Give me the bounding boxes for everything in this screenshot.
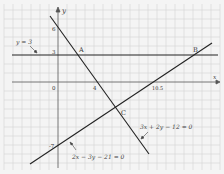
- arrow-icon: [141, 132, 148, 139]
- point-c-label: C: [121, 109, 126, 117]
- origin-label: 0: [52, 85, 56, 91]
- label-line-2: 2x − 3y − 21 = 0: [71, 153, 125, 161]
- axes: [12, 7, 220, 168]
- y-tick-6: 6: [52, 26, 56, 32]
- grid: [4, 4, 220, 170]
- point-a-label: A: [78, 46, 84, 54]
- label-y-equals-3: y = 3: [15, 38, 32, 46]
- y-tick-3: 3: [52, 49, 56, 55]
- coordinate-graph: x y 0 4 10.5 6 3 -7 A B C y = 3 3x + 2y …: [0, 0, 224, 174]
- graph-lines: [12, 16, 218, 164]
- x-axis-arrow-icon: [216, 80, 220, 84]
- label-line-1: 3x + 2y − 12 = 0: [140, 123, 193, 131]
- point-b-label: B: [193, 46, 198, 54]
- arrow-icon: [70, 142, 76, 150]
- y-axis-arrow-icon: [56, 7, 60, 12]
- y-axis-label: y: [61, 7, 67, 15]
- x-axis-label: x: [213, 73, 217, 80]
- x-tick-10-5: 10.5: [152, 85, 163, 91]
- x-tick-4: 4: [93, 85, 97, 91]
